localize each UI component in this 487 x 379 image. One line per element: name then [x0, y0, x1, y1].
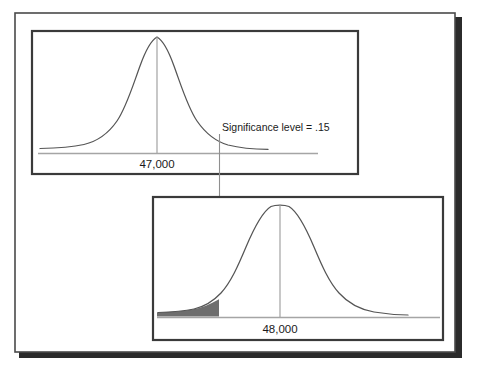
top-panel: 47,000 — [32, 31, 358, 174]
bottom-panel-border — [153, 197, 443, 340]
figure-page: 47,000 Significance level = .15 48,000 — [0, 0, 487, 379]
bottom-panel-center-label: 48,000 — [262, 323, 297, 335]
bottom-panel: 48,000 — [153, 197, 443, 340]
top-panel-border — [32, 31, 358, 174]
significance-level-annotation: Significance level = .15 — [222, 121, 330, 133]
top-panel-center-label: 47,000 — [139, 158, 174, 170]
statistics-figure: 47,000 Significance level = .15 48,000 — [0, 0, 487, 379]
